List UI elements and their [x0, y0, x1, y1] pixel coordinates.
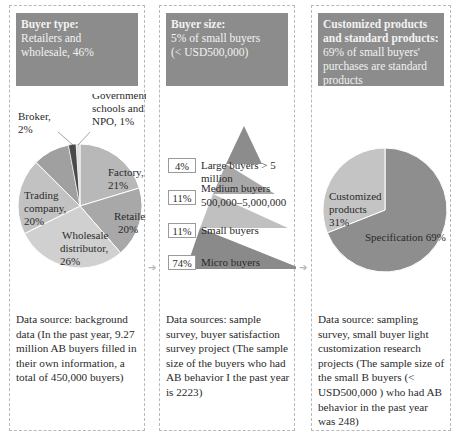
- header-subtitle-2: (< USD500,000): [171, 45, 283, 59]
- arrow-right-icon: ➔: [299, 262, 307, 273]
- header-title: Customized products and standard product…: [323, 17, 439, 45]
- svg-text:distributor,: distributor,: [60, 242, 108, 254]
- header-title: Buyer type:: [21, 17, 133, 31]
- product-type-header: Customized products and standard product…: [318, 13, 444, 86]
- buyer-size-source: Data sources: sample survey, buyer satis…: [166, 312, 290, 400]
- label-wholesale: Wholesale: [62, 229, 109, 241]
- arrow-right-icon: ➔: [148, 262, 156, 273]
- svg-text:20%: 20%: [24, 215, 44, 227]
- label-retailer: Retailer,: [114, 210, 146, 222]
- svg-text:schools and: schools and: [92, 102, 144, 114]
- pct-medium: 11%: [168, 190, 196, 205]
- buyer-type-header: Buyer type: Retailers and wholesale, 46%: [16, 13, 138, 86]
- buyer-type-panel: Buyer type: Retailers and wholesale, 46%…: [9, 5, 145, 431]
- product-type-source: Data source: sampling survey, small buye…: [318, 312, 446, 429]
- header-subtitle: Retailers and wholesale, 46%: [21, 31, 133, 59]
- label-factory: Factory,: [108, 166, 144, 178]
- header-subtitle: 69% of small buyers' purchases are stand…: [323, 45, 439, 87]
- svg-text:2%: 2%: [18, 123, 33, 135]
- pct-micro: 74%: [168, 255, 196, 270]
- svg-text:NPO, 1%: NPO, 1%: [92, 115, 134, 127]
- product-type-panel: Customized products and standard product…: [311, 5, 451, 431]
- buyer-size-header: Buyer size: 5% of small buyers (< USD500…: [166, 13, 288, 86]
- svg-text:company,: company,: [24, 202, 67, 214]
- label-medium: Medium buyers: [201, 182, 270, 195]
- label-small: Small buyers: [201, 224, 259, 237]
- pct-large: 4%: [168, 158, 196, 173]
- label-customized: Customized: [329, 190, 382, 202]
- buyer-type-pie-chart: Factory, 21% Retailer, 20% Wholesale dis…: [10, 94, 146, 294]
- svg-text:31%: 31%: [329, 216, 349, 228]
- svg-text:21%: 21%: [108, 179, 128, 191]
- label-government: Government,: [92, 94, 146, 101]
- header-subtitle: 5% of small buyers: [171, 31, 283, 45]
- label-specification: Specification 69%: [365, 231, 446, 243]
- svg-text:20%: 20%: [118, 223, 138, 235]
- svg-text:products: products: [329, 203, 367, 215]
- label-micro: Micro buyers: [201, 256, 260, 269]
- header-title: Buyer size:: [171, 17, 283, 31]
- buyer-type-source: Data source: background data (In the pas…: [16, 312, 140, 385]
- svg-text:26%: 26%: [60, 255, 80, 267]
- label-broker: Broker,: [18, 110, 51, 122]
- buyer-size-panel: Buyer size: 5% of small buyers (< USD500…: [159, 5, 295, 431]
- product-type-pie-chart: Customized products 31% Specification 69…: [312, 141, 452, 291]
- pct-small: 11%: [168, 223, 196, 238]
- label-trading: Trading: [24, 189, 59, 201]
